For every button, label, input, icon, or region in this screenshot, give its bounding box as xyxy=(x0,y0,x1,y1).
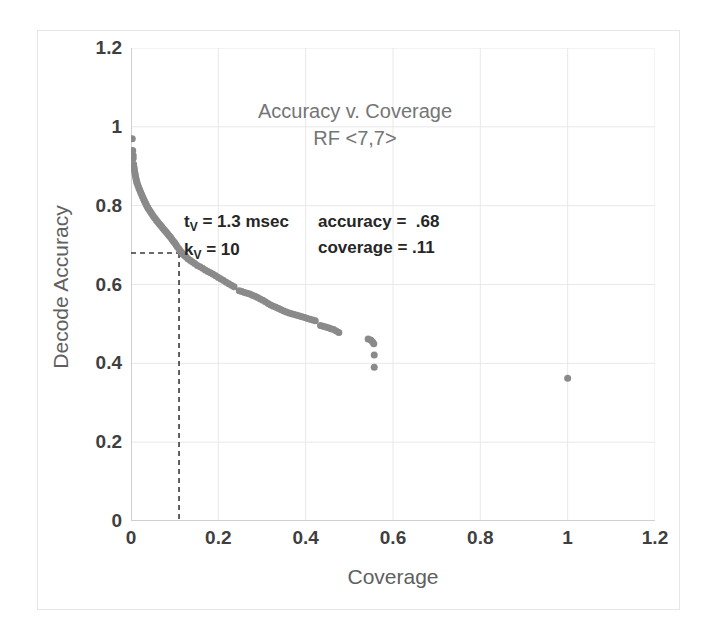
guide-lines-group xyxy=(131,253,179,521)
tv-subscript: V xyxy=(190,220,198,234)
y-tick-label: 0.4 xyxy=(96,352,122,374)
accuracy-value: .68 xyxy=(416,212,440,231)
y-tick-label: 0.8 xyxy=(96,195,122,217)
x-tick-label: 0.8 xyxy=(467,527,493,549)
coverage-value: .11 xyxy=(412,238,435,257)
annotation-values: accuracy = .68 coverage = .11 xyxy=(318,209,439,262)
kv-value: = 10 xyxy=(201,240,239,259)
annotation-accuracy-line: accuracy = .68 xyxy=(318,209,439,235)
chart-title: Accuracy v. Coverage xyxy=(220,98,490,125)
chart-subtitle: RF <7,7> xyxy=(220,125,490,152)
annotation-parameters: tV = 1.3 msec kV = 10 xyxy=(184,209,289,265)
x-tick-label: 0 xyxy=(126,527,137,549)
accuracy-label: accuracy = xyxy=(318,212,406,231)
x-tick-label: 0.4 xyxy=(292,527,318,549)
accuracy-spacer xyxy=(406,212,415,231)
y-tick-label: 0.6 xyxy=(96,274,122,296)
y-axis-title: Decode Accuracy xyxy=(49,157,73,417)
annotation-coverage-line: coverage = .11 xyxy=(318,235,439,261)
x-tick-label: 0.2 xyxy=(205,527,231,549)
tv-value: = 1.3 msec xyxy=(198,212,289,231)
x-axis-tick-labels: 00.20.40.60.811.2 xyxy=(131,527,655,557)
chart-figure: 00.20.40.60.811.2 00.20.40.60.811.2 Cove… xyxy=(0,0,713,642)
annotation-tv-line: tV = 1.3 msec xyxy=(184,209,289,237)
chart-title-block: Accuracy v. Coverage RF <7,7> xyxy=(220,98,490,152)
y-tick-label: 0 xyxy=(111,510,122,532)
y-tick-label: 1 xyxy=(111,116,122,138)
coverage-label: coverage = xyxy=(318,238,407,257)
annotation-kv-line: kV = 10 xyxy=(184,237,289,265)
x-tick-label: 1 xyxy=(562,527,573,549)
y-tick-label: 1.2 xyxy=(96,37,122,59)
x-tick-label: 1.2 xyxy=(642,527,668,549)
x-tick-label: 0.6 xyxy=(380,527,406,549)
y-tick-label: 0.2 xyxy=(96,431,122,453)
x-axis-title: Coverage xyxy=(131,565,655,589)
